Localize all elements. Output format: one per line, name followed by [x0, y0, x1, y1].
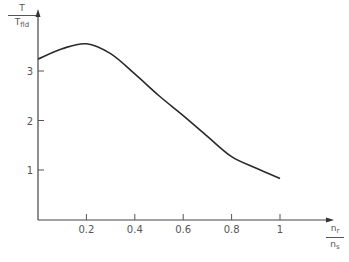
y-ticks: 123	[27, 66, 44, 176]
x-tick-label: 0.2	[78, 224, 94, 235]
y-axis-label-denominator: Tfld	[8, 16, 36, 29]
x-axis-arrow-icon	[326, 218, 334, 223]
y-axis	[36, 9, 41, 220]
chart-canvas: 123 0.20.40.60.81	[0, 0, 349, 262]
y-axis-label: T Tfld	[8, 4, 36, 29]
data-line	[38, 44, 280, 179]
x-tick-label: 1	[277, 224, 283, 235]
y-axis-arrow-icon	[36, 9, 41, 17]
x-den-sub: s	[336, 243, 340, 251]
y-tick-label: 1	[27, 165, 33, 176]
x-axis-label-numerator: nr	[326, 224, 344, 238]
x-ticks: 0.20.40.60.81	[78, 214, 283, 235]
y-axis-label-numerator: T	[8, 4, 36, 16]
x-tick-label: 0.8	[224, 224, 240, 235]
y-tick-label: 2	[27, 116, 33, 127]
x-num-sub: r	[336, 227, 339, 235]
x-tick-label: 0.6	[175, 224, 191, 235]
y-den-sub: fld	[20, 21, 29, 29]
x-axis-label-denominator: ns	[326, 238, 344, 251]
y-tick-label: 3	[27, 66, 33, 77]
x-axis	[38, 218, 334, 223]
x-tick-label: 0.4	[127, 224, 143, 235]
x-axis-label: nr ns	[326, 224, 344, 251]
